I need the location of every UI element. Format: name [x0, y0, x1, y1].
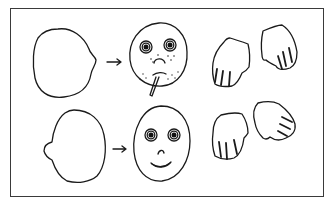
- freckles: [139, 54, 178, 80]
- hand-bottom-right: [254, 102, 295, 140]
- arrow-bottom: [113, 146, 126, 152]
- cigarette-icon: [150, 73, 166, 96]
- frown-mouth: [154, 59, 165, 63]
- sad-face: [130, 23, 187, 96]
- illustration: [0, 0, 335, 209]
- left-eye-icon: [145, 129, 157, 141]
- arrow-top: [107, 59, 121, 65]
- blank-head-bottom: [44, 110, 105, 182]
- right-eye-icon: [168, 129, 180, 141]
- left-eye-icon: [140, 41, 152, 53]
- blank-head-top: [33, 29, 96, 98]
- happy-face: [134, 106, 190, 181]
- hand-top-left: [213, 38, 250, 86]
- hand-bottom-left: [213, 113, 248, 159]
- hand-top-right: [261, 25, 297, 69]
- nose: [158, 150, 164, 154]
- smile-mouth: [151, 162, 171, 167]
- right-eye-icon: [164, 39, 176, 51]
